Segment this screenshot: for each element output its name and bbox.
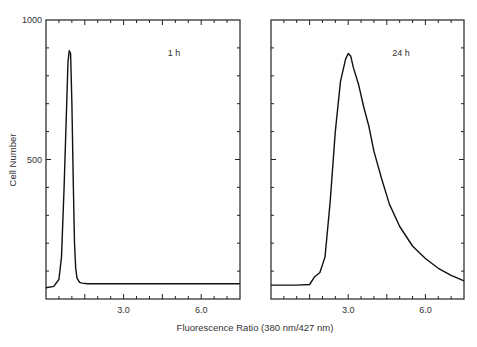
panel-right-24h: 3.06.024 h (271, 20, 464, 315)
y-tick-label: 1000 (22, 15, 42, 25)
x-tick-label: 3.0 (342, 305, 355, 315)
x-tick-label: 6.0 (419, 305, 432, 315)
histogram-curve (271, 54, 464, 286)
histogram-curve (46, 51, 240, 288)
y-axis-title: Cell Number (7, 134, 18, 187)
panel-annotation: 1 h (168, 48, 181, 58)
x-tick-label: 6.0 (195, 305, 208, 315)
x-axis-title: Fluorescence Ratio (380 nm/427 nm) (177, 322, 334, 333)
y-tick-label: 500 (27, 155, 42, 165)
panel-left-1h: 3.06.050010001 h (22, 15, 240, 315)
panel-annotation: 24 h (392, 48, 410, 58)
figure: 3.06.050010001 h 3.06.024 h Cell Number … (0, 0, 477, 347)
x-tick-label: 3.0 (117, 305, 130, 315)
plot-frame (271, 20, 464, 299)
